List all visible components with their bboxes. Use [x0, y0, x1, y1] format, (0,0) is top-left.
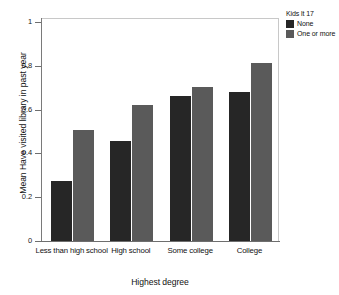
legend-title: Kids lt 17 [286, 10, 339, 17]
bar [73, 130, 94, 241]
bar [229, 92, 250, 241]
y-axis-tick [35, 110, 41, 111]
y-axis-tick-label: 0 [0, 237, 32, 245]
legend-label: None [297, 20, 313, 27]
bar [192, 87, 213, 241]
x-axis-title: Highest degree [41, 277, 279, 287]
y-axis-tick [35, 22, 41, 23]
x-axis-line [41, 241, 280, 242]
legend-label: One or more [297, 30, 335, 37]
legend: Kids lt 17 NoneOne or more [286, 10, 339, 39]
bar-chart: 00.20.40.60.81 Less than high schoolHigh… [0, 0, 339, 295]
y-axis-tick [35, 153, 41, 154]
bars-layer [42, 18, 279, 241]
y-axis-tick [35, 197, 41, 198]
legend-items: NoneOne or more [286, 19, 339, 38]
y-axis-title: Mean Have visited library in past year [18, 8, 28, 238]
bar [51, 181, 72, 241]
legend-item[interactable]: One or more [286, 29, 339, 38]
y-axis-tick [35, 66, 41, 67]
legend-item[interactable]: None [286, 19, 339, 28]
bar [110, 141, 131, 241]
bar [251, 63, 272, 241]
bar [170, 96, 191, 241]
legend-swatch [286, 20, 294, 28]
x-axis-tick-label: College [213, 246, 286, 255]
legend-swatch [286, 30, 294, 38]
bar [132, 105, 153, 241]
y-axis-tick [35, 241, 41, 242]
